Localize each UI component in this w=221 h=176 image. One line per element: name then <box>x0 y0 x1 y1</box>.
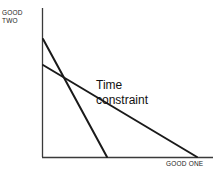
x-axis-label: GOOD ONE <box>166 160 203 168</box>
time-constraint-annotation: Time constraint <box>96 78 148 107</box>
ppf-diagram: GOOD TWO GOOD ONE Time constraint <box>0 0 221 176</box>
y-axis-label: GOOD TWO <box>2 9 23 24</box>
